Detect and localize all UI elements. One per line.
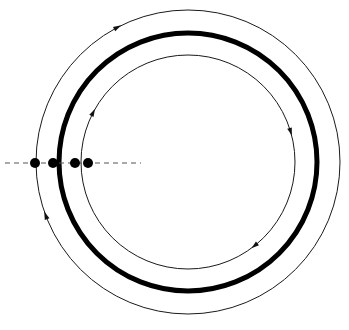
- orbit-diagram: [0, 0, 349, 330]
- marker-dot: [83, 158, 93, 168]
- marker-dot: [70, 158, 80, 168]
- diagram-canvas: [0, 0, 349, 330]
- marker-dot: [30, 158, 40, 168]
- marker-dot: [48, 158, 58, 168]
